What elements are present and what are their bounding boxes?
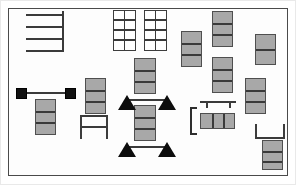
rack-divider-h: [145, 39, 166, 41]
bracket-arm-bottom: [190, 133, 197, 135]
corner-marker-top-left: [118, 95, 136, 110]
module-stack-center: [134, 105, 156, 141]
bench-right-bottom-rail: [255, 137, 285, 139]
work-bench-left: [80, 115, 108, 139]
bracket-arm-top: [190, 107, 197, 109]
module-divider: [135, 70, 155, 72]
bench-top-rail: [80, 115, 108, 117]
module-stack-bottom-right: [262, 140, 283, 170]
module-divider: [213, 23, 232, 25]
module-divider: [256, 49, 275, 51]
module-divider: [223, 114, 225, 128]
rack-divider-h: [114, 39, 135, 41]
corner-marker-top-right: [158, 95, 176, 110]
bench-leg-left: [80, 115, 82, 139]
module-divider: [263, 161, 282, 163]
comb-tooth: [26, 26, 64, 28]
rack-divider-h: [114, 19, 135, 21]
bench-leg-right: [106, 115, 108, 139]
module-divider: [182, 43, 201, 45]
corner-marker-bottom-left: [118, 142, 136, 157]
bench-mid-rail: [80, 126, 108, 128]
module-divider: [263, 151, 282, 153]
node-connector-rail: [25, 92, 67, 94]
comb-rack: [22, 11, 64, 52]
open-rack-left: [113, 10, 136, 51]
bracket-spine: [190, 107, 192, 135]
ceiling-hanger-rail: [200, 101, 236, 109]
module-stack-far-right1: [255, 34, 276, 65]
module-row-bottom-mid: [200, 113, 235, 129]
module-stack-left-mid: [85, 78, 106, 114]
module-divider: [212, 114, 214, 128]
module-divider: [182, 54, 201, 56]
rack-divider-h: [114, 29, 135, 31]
comb-tooth: [26, 14, 64, 16]
work-bench-right: [255, 124, 285, 139]
comb-tooth: [26, 50, 64, 52]
module-stack-upper-right2: [212, 11, 233, 47]
corner-marker-bottom-right: [158, 142, 176, 157]
module-stack-far-right2: [245, 78, 266, 114]
module-stack-node-left: [35, 99, 56, 135]
module-divider: [135, 81, 155, 83]
rack-divider-h: [145, 29, 166, 31]
module-stack-upper-right1: [181, 31, 202, 67]
module-divider: [36, 122, 55, 124]
module-divider: [213, 34, 232, 36]
module-divider: [213, 69, 232, 71]
comb-spine: [62, 11, 64, 52]
module-divider: [246, 101, 265, 103]
module-divider: [246, 90, 265, 92]
module-divider: [36, 111, 55, 113]
module-divider: [135, 128, 155, 130]
module-divider: [213, 80, 232, 82]
hanger-drop-right: [229, 101, 231, 108]
dimension-bracket: [190, 107, 197, 135]
post-node-right: [65, 88, 76, 99]
module-stack-upper-mid: [134, 58, 156, 94]
hanger-drop-left: [206, 101, 208, 108]
floor-plan-canvas: [0, 0, 296, 185]
module-divider: [135, 117, 155, 119]
post-node-left: [16, 88, 27, 99]
comb-tooth: [26, 38, 64, 40]
rack-divider-h: [145, 19, 166, 21]
open-rack-right: [144, 10, 167, 51]
module-divider: [86, 101, 105, 103]
module-divider: [86, 90, 105, 92]
module-stack-upper-right3: [212, 57, 233, 93]
